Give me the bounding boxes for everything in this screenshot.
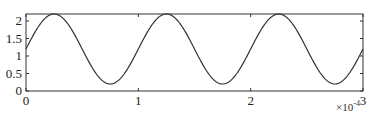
y-tick-label: 2	[16, 13, 23, 28]
y-tick-label: 1.5	[6, 31, 22, 46]
x-tick-label: 2	[247, 93, 254, 108]
y-tick-label: 0.5	[6, 66, 22, 81]
axes-frame	[26, 14, 363, 91]
series-line	[26, 14, 363, 84]
plot-area	[26, 14, 363, 84]
x-axis-ticks: 0123	[23, 14, 367, 108]
x-tick-label: 3	[360, 93, 367, 108]
y-tick-label: 1	[16, 48, 23, 63]
y-tick-label: 0	[16, 83, 23, 98]
x-tick-label: 1	[135, 93, 142, 108]
y-axis-ticks: 00.511.52	[6, 13, 363, 98]
x-tick-label: 0	[23, 93, 30, 108]
line-chart: 00.511.52 0123 ×10-4	[0, 0, 374, 123]
x-axis-multiplier: ×10-4	[336, 99, 360, 113]
